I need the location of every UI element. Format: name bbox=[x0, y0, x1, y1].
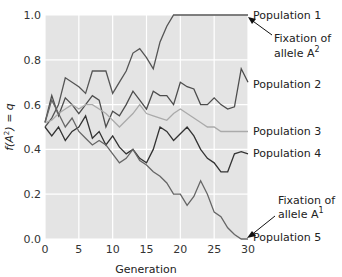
annotation-fixation-a1-line2: allele A1 bbox=[278, 206, 324, 221]
annotation-fixation-a1-line1: Fixation of bbox=[278, 194, 336, 207]
annotation-fixation-a2-line2: allele A2 bbox=[274, 45, 320, 60]
y-axis-label: f(A2) = q bbox=[3, 103, 16, 151]
label-population-5: Population 5 bbox=[253, 231, 321, 244]
x-tick-label: 20 bbox=[173, 243, 187, 256]
x-tick-label: 25 bbox=[207, 243, 221, 256]
label-population-2: Population 2 bbox=[253, 78, 321, 91]
line-chart: 0.00.20.40.60.81.0 051015202530 Populati… bbox=[0, 0, 342, 277]
y-tick-label: 1.0 bbox=[24, 9, 42, 22]
y-tick-label: 0.4 bbox=[24, 143, 42, 156]
x-tick-label: 0 bbox=[42, 243, 49, 256]
label-population-1: Population 1 bbox=[253, 9, 321, 22]
label-population-4: Population 4 bbox=[253, 147, 321, 160]
x-tick-label: 5 bbox=[75, 243, 82, 256]
x-axis-ticks: 051015202530 bbox=[42, 243, 256, 256]
x-tick-label: 15 bbox=[140, 243, 154, 256]
label-population-3: Population 3 bbox=[253, 125, 321, 138]
y-tick-label: 0.8 bbox=[24, 54, 42, 67]
x-axis-label: Generation bbox=[115, 263, 176, 276]
annotation-fixation-a2-line1: Fixation of bbox=[274, 32, 332, 45]
y-axis-ticks: 0.00.20.40.60.81.0 bbox=[24, 9, 42, 246]
x-tick-label: 10 bbox=[106, 243, 120, 256]
y-tick-label: 0.0 bbox=[24, 233, 42, 246]
y-tick-label: 0.6 bbox=[24, 99, 42, 112]
y-tick-label: 0.2 bbox=[24, 188, 42, 201]
x-tick-label: 30 bbox=[241, 243, 255, 256]
